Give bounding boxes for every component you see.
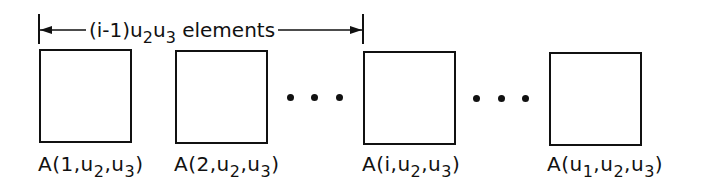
block-u1-label: A(u1,u2,u3) (547, 152, 663, 176)
block-i (363, 51, 456, 145)
block-2-label: A(2,u2,u3) (174, 152, 279, 176)
block-u1 (549, 52, 642, 146)
block-1-label: A(1,u2,u3) (38, 152, 143, 176)
block-2 (175, 50, 268, 144)
block-i-label: A(i,u2,u3) (362, 152, 460, 176)
dimension-label: (i-1)u2u3 elements (86, 18, 278, 42)
block-1 (39, 49, 132, 143)
